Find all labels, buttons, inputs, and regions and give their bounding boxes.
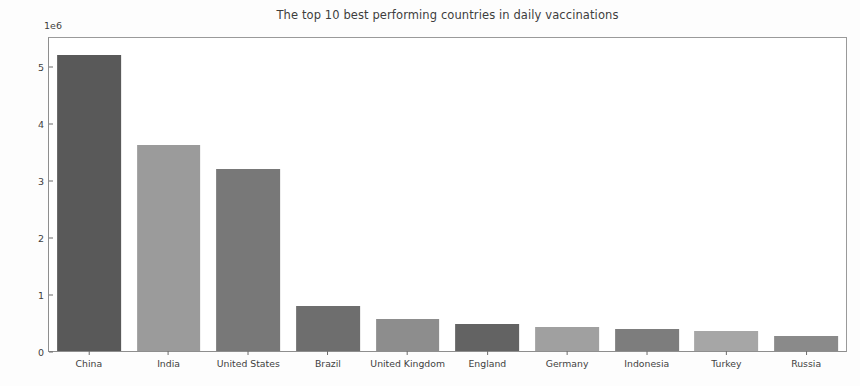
x-tick-label: India	[157, 358, 180, 369]
y-tick-label: 5	[38, 62, 49, 73]
bar-germany	[535, 327, 599, 351]
y-tick-5: 5	[38, 57, 49, 76]
x-tick-9: Russia	[791, 351, 821, 369]
y-tick-mark	[49, 295, 53, 296]
x-tick-mark	[88, 351, 89, 355]
x-tick-mark	[327, 351, 328, 355]
x-tick-label: China	[76, 358, 103, 369]
bar-united-kingdom	[376, 319, 440, 351]
x-tick-mark	[806, 351, 807, 355]
bar-united-states	[216, 169, 280, 351]
x-tick-label: United States	[217, 358, 280, 369]
y-tick-mark	[49, 352, 53, 353]
x-tick-6: Germany	[546, 351, 589, 369]
bar-india	[137, 145, 201, 351]
y-tick-1: 1	[38, 285, 49, 304]
x-tick-2: United States	[217, 351, 280, 369]
y-tick-0: 0	[38, 342, 49, 361]
x-tick-label: United Kingdom	[370, 358, 445, 369]
x-tick-3: Brazil	[315, 351, 341, 369]
x-tick-5: England	[468, 351, 506, 369]
bar-indonesia	[615, 329, 679, 351]
y-tick-mark	[49, 124, 53, 125]
chart-title: The top 10 best performing countries in …	[48, 8, 847, 22]
x-tick-mark	[567, 351, 568, 355]
bar-england	[455, 324, 519, 351]
x-tick-mark	[646, 351, 647, 355]
y-tick-mark	[49, 67, 53, 68]
y-tick-label: 0	[38, 347, 49, 358]
x-tick-label: Brazil	[315, 358, 341, 369]
y-tick-label: 3	[38, 176, 49, 187]
x-tick-4: United Kingdom	[370, 351, 445, 369]
x-tick-label: England	[468, 358, 506, 369]
bar-russia	[774, 336, 838, 351]
x-tick-label: Indonesia	[624, 358, 669, 369]
y-tick-label: 4	[38, 119, 49, 130]
x-tick-mark	[726, 351, 727, 355]
x-tick-mark	[168, 351, 169, 355]
x-tick-mark	[487, 351, 488, 355]
x-tick-8: Turkey	[711, 351, 741, 369]
x-tick-mark	[248, 351, 249, 355]
bar-china	[57, 55, 121, 351]
bar-turkey	[695, 331, 759, 351]
y-tick-3: 3	[38, 171, 49, 190]
x-tick-label: Turkey	[711, 358, 741, 369]
y-tick-mark	[49, 238, 53, 239]
plot-area: Number of daily vaccinations (in million…	[48, 37, 847, 352]
y-tick-4: 4	[38, 114, 49, 133]
x-tick-mark	[407, 351, 408, 355]
x-tick-7: Indonesia	[624, 351, 669, 369]
x-tick-0: China	[76, 351, 103, 369]
x-tick-label: Germany	[546, 358, 589, 369]
figure-canvas: The top 10 best performing countries in …	[0, 0, 860, 386]
x-tick-label: Russia	[791, 358, 821, 369]
y-tick-label: 2	[38, 233, 49, 244]
y-tick-mark	[49, 181, 53, 182]
y-axis-offset-text: 1e6	[44, 20, 62, 31]
x-tick-1: India	[157, 351, 180, 369]
bar-brazil	[296, 306, 360, 351]
y-tick-2: 2	[38, 228, 49, 247]
y-tick-label: 1	[38, 290, 49, 301]
